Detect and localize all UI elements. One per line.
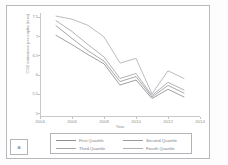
- legend-item-second-quartile: Second Quartile: [121, 136, 188, 144]
- legend-line-icon: [123, 148, 143, 149]
- panel-label: a: [10, 139, 28, 155]
- y-axis-title: CO2 emissions per capita (tons): [25, 0, 30, 94]
- legend-line-icon: [56, 148, 76, 149]
- y-tick-mark: [38, 94, 40, 95]
- x-tick-mark: [168, 117, 169, 119]
- x-tick-mark: [72, 117, 73, 119]
- y-tick-mark: [38, 36, 40, 37]
- legend-line-icon: [56, 140, 76, 141]
- y-tick-mark: [38, 75, 40, 76]
- y-tick-mark: [38, 113, 40, 114]
- x-tick-mark: [200, 117, 201, 119]
- legend-label: Third Quartile: [79, 146, 105, 151]
- series-line: [56, 35, 184, 98]
- y-tick-label: 5: [24, 111, 38, 116]
- legend-label: First Quartile: [79, 138, 104, 143]
- legend-item-third-quartile: Third Quartile: [54, 144, 121, 152]
- chart-legend: First Quartile Second Quartile Third Qua…: [50, 133, 192, 154]
- legend-row: Third Quartile Fourth Quartile: [54, 144, 188, 152]
- x-axis-title: Year: [40, 124, 200, 129]
- x-tick-mark: [136, 117, 137, 119]
- series-line: [56, 21, 184, 96]
- y-tick-mark: [38, 17, 40, 18]
- legend-label: Second Quartile: [146, 138, 177, 143]
- figure-container: 7.576.565.55 200420062008201020122014 CO…: [0, 0, 228, 165]
- legend-line-icon: [123, 140, 143, 141]
- y-tick-mark: [38, 55, 40, 56]
- series-line: [56, 16, 184, 94]
- legend-item-first-quartile: First Quartile: [54, 136, 121, 144]
- x-tick-mark: [40, 117, 41, 119]
- legend-row: First Quartile Second Quartile: [54, 136, 188, 144]
- legend-label: Fourth Quartile: [146, 146, 175, 151]
- line-chart-plot: [40, 13, 200, 117]
- legend-item-fourth-quartile: Fourth Quartile: [121, 144, 188, 152]
- series-line: [56, 26, 184, 97]
- x-tick-mark: [104, 117, 105, 119]
